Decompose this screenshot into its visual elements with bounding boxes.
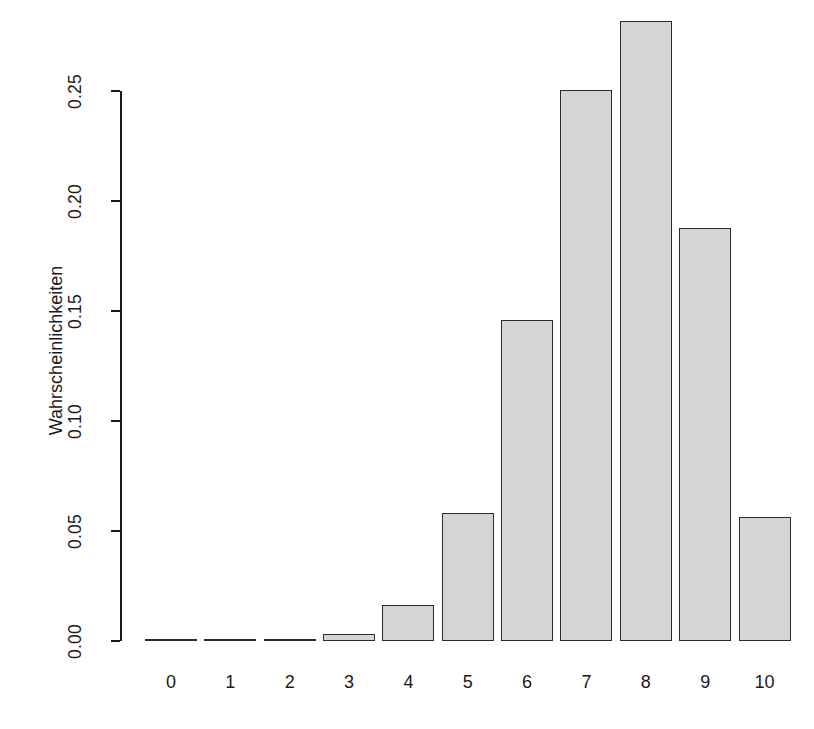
x-axis-tick-label: 2 <box>264 672 316 693</box>
x-axis-tick-label: 8 <box>620 672 672 693</box>
y-axis-tick-label-text: 0.20 <box>65 178 86 224</box>
y-axis-tick <box>111 200 120 202</box>
x-axis-tick-label: 5 <box>442 672 494 693</box>
x-axis-tick-label: 0 <box>145 672 197 693</box>
y-axis-tick <box>111 90 120 92</box>
y-axis-tick-label: 0.00 <box>52 630 98 652</box>
bar-chart: 0.000.050.100.150.200.25 Wahrscheinlichk… <box>0 0 814 729</box>
x-axis-tick-label: 6 <box>501 672 553 693</box>
x-axis-tick-label: 1 <box>204 672 256 693</box>
y-axis-tick-label: 0.05 <box>52 520 98 542</box>
y-axis-tick-label-text: 0.15 <box>65 288 86 334</box>
y-axis-tick <box>111 640 120 642</box>
x-axis-tick-label: 10 <box>739 672 791 693</box>
y-axis-spine <box>120 91 122 641</box>
y-axis-tick-label-text: 0.10 <box>65 398 86 444</box>
x-axis-tick-label: 7 <box>560 672 612 693</box>
x-axis-tick-label: 3 <box>323 672 375 693</box>
bar <box>739 517 791 641</box>
bar <box>382 605 434 641</box>
bar <box>442 513 494 641</box>
bar <box>501 320 553 641</box>
bar <box>679 228 731 641</box>
y-axis-tick <box>111 310 120 312</box>
y-axis-title: Wahrscheinlichkeiten <box>46 226 67 476</box>
y-axis-tick <box>111 530 120 532</box>
bar <box>560 90 612 641</box>
y-axis-tick-label: 0.25 <box>52 80 98 102</box>
y-axis-tick-label-text: 0.00 <box>65 618 86 664</box>
y-axis-tick-label-text: 0.05 <box>65 508 86 554</box>
y-axis-tick <box>111 420 120 422</box>
bar <box>145 639 197 641</box>
bar <box>204 639 256 641</box>
bar <box>264 639 316 641</box>
x-axis-tick-label: 4 <box>382 672 434 693</box>
bar <box>323 634 375 641</box>
y-axis-tick-label: 0.20 <box>52 190 98 212</box>
x-axis-tick-label: 9 <box>679 672 731 693</box>
plot-area: 0.000.050.100.150.200.25 Wahrscheinlichk… <box>0 0 814 729</box>
bar <box>620 21 672 641</box>
y-axis-tick-label-text: 0.25 <box>65 68 86 114</box>
